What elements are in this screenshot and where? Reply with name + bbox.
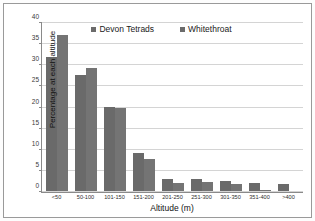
y-axis-tick-mark: [39, 149, 42, 150]
x-axis-title: Altitude (m): [41, 203, 303, 213]
y-axis-tick-label: 20: [26, 97, 39, 104]
chart-screenshot: Devon Tetrads Whitethroat 05101520253035…: [0, 0, 315, 221]
x-axis-tick-label: 50-100: [71, 194, 100, 200]
chart-area: Devon Tetrads Whitethroat 05101520253035…: [11, 11, 312, 218]
y-axis-tick-label: 30: [26, 55, 39, 62]
bar: [249, 183, 260, 191]
bar: [220, 181, 231, 191]
y-axis-tick-label: 0: [26, 182, 39, 189]
bar: [104, 107, 115, 191]
bar: [191, 179, 202, 191]
x-axis-tick-label: 301-350: [216, 194, 245, 200]
bar-group: [216, 23, 245, 191]
bar-group: [245, 23, 274, 191]
y-axis-tick-label: 40: [26, 13, 39, 20]
bar: [115, 108, 126, 191]
plot-box: 0510152025303540: [41, 23, 303, 193]
bar-group: [72, 23, 101, 191]
y-axis-tick-mark: [39, 85, 42, 86]
x-axis-tick-label: 251-300: [187, 194, 216, 200]
bar: [260, 190, 271, 191]
y-axis-tick-mark: [39, 43, 42, 44]
y-axis-tick-label: 15: [26, 118, 39, 125]
y-axis-tick-label: 35: [26, 34, 39, 41]
image-frame: Devon Tetrads Whitethroat 05101520253035…: [3, 3, 312, 218]
bar: [173, 183, 184, 191]
y-axis-tick-mark: [39, 128, 42, 129]
y-axis-title: Percentage at each altitude: [48, 10, 57, 150]
bar: [75, 75, 86, 191]
bar-groups: [43, 23, 303, 191]
y-axis-tick-mark: [39, 107, 42, 108]
x-axis-tick-label: <50: [42, 194, 71, 200]
gridline: [42, 191, 303, 192]
bar: [231, 184, 242, 191]
x-axis-tick-label: 351-400: [245, 194, 274, 200]
bar: [133, 153, 144, 191]
x-axis-tick-label: 101-150: [100, 194, 129, 200]
bar-group: [101, 23, 130, 191]
x-axis-tick-label: 151-200: [129, 194, 158, 200]
y-axis-tick-label: 25: [26, 76, 39, 83]
bar: [202, 182, 213, 191]
x-axis-tick-label: 201-250: [158, 194, 187, 200]
y-axis-tick-mark: [39, 170, 42, 171]
y-axis-tick-mark: [39, 64, 42, 65]
y-axis-tick-label: 10: [26, 139, 39, 146]
y-axis-tick-mark: [39, 22, 42, 23]
bar-group: [274, 23, 303, 191]
y-axis-tick-mark: [39, 191, 42, 192]
x-axis-tick-label: >400: [274, 194, 303, 200]
bar-group: [130, 23, 159, 191]
y-axis-tick-label: 5: [26, 160, 39, 167]
bar-group: [159, 23, 188, 191]
bar: [278, 184, 289, 191]
bar: [144, 159, 155, 191]
bar-group: [187, 23, 216, 191]
bar: [57, 35, 68, 191]
plot-wrapper: 0510152025303540 Percentage at each alti…: [41, 23, 303, 193]
bar: [86, 68, 97, 191]
x-axis-tick-labels: <5050-100101-150151-200201-250251-300301…: [42, 194, 303, 200]
bar: [162, 179, 173, 191]
